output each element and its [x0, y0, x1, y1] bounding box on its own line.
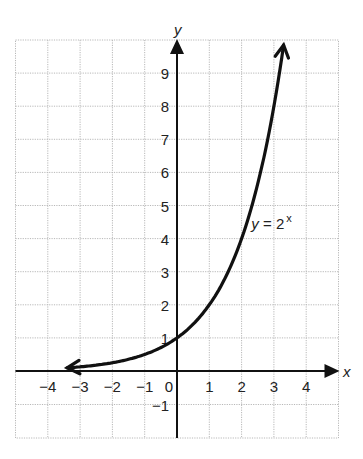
x-tick-label: 1 — [205, 378, 213, 395]
y-tick-label: −1 — [152, 397, 169, 414]
x-tick-label: 0 — [165, 378, 173, 395]
y-tick-label: 2 — [161, 297, 169, 314]
x-tick-label: 2 — [237, 378, 245, 395]
x-tick-label: −2 — [104, 378, 121, 395]
x-tick-label: −4 — [39, 378, 56, 395]
x-tick-label: −1 — [136, 378, 153, 395]
x-axis-label: x — [342, 363, 351, 380]
y-axis-label: y — [173, 21, 183, 38]
y-tick-label: 7 — [161, 131, 169, 148]
x-axis-arrow-icon — [325, 364, 340, 378]
y-tick-label: 8 — [161, 98, 169, 115]
y-tick-label: 3 — [161, 264, 169, 281]
y-axis-arrow-icon — [170, 39, 184, 54]
exponential-graph: −4−3−2−101234−1123456789 x y y = 2x — [0, 0, 363, 459]
y-tick-label: 5 — [161, 198, 169, 215]
x-tick-label: 4 — [302, 378, 310, 395]
curve-path — [67, 45, 283, 368]
x-tick-label: −3 — [72, 378, 89, 395]
y-tick-label: 4 — [161, 231, 169, 248]
function-label: y = 2x — [250, 212, 292, 232]
x-tick-label: 3 — [270, 378, 278, 395]
y-tick-label: 9 — [161, 65, 169, 82]
y-tick-label: 6 — [161, 164, 169, 181]
